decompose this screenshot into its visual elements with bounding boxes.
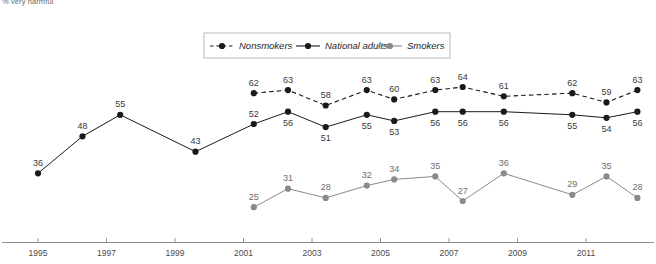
x-axis: 199519971999200120032005200720092011 (2, 238, 654, 258)
data-label: 63 (283, 75, 293, 85)
data-point (364, 183, 370, 189)
data-label: 53 (389, 127, 399, 137)
series-smokers (251, 170, 641, 210)
chart-container: % very harmful NonsmokersNational adults… (0, 0, 656, 264)
line-chart: NonsmokersNational adultsSmokers 1995199… (0, 0, 656, 264)
data-point (460, 109, 466, 115)
data-label: 52 (249, 109, 259, 119)
data-point (192, 149, 198, 155)
data-point (569, 192, 575, 198)
data-label: 43 (190, 136, 200, 146)
data-label: 60 (389, 84, 399, 94)
series-line (38, 112, 637, 174)
data-label: 62 (567, 78, 577, 88)
data-point (460, 84, 466, 90)
data-point (501, 93, 507, 99)
data-label: 63 (430, 75, 440, 85)
data-label: 25 (249, 192, 259, 202)
data-label: 31 (283, 173, 293, 183)
series-national-adults (35, 109, 641, 177)
data-label: 28 (632, 182, 642, 192)
legend-marker-icon (387, 43, 393, 49)
data-label: 56 (430, 118, 440, 128)
data-point (391, 118, 397, 124)
data-label: 56 (458, 118, 468, 128)
data-point (251, 90, 257, 96)
legend-label: Nonsmokers (239, 40, 293, 51)
data-point (391, 176, 397, 182)
data-point (634, 87, 640, 93)
x-axis-tick-label: 2009 (508, 248, 527, 258)
data-point (432, 173, 438, 179)
data-point (323, 102, 329, 108)
data-label: 56 (632, 118, 642, 128)
data-point (569, 112, 575, 118)
data-label: 61 (499, 81, 509, 91)
data-point (603, 99, 609, 105)
data-point (79, 133, 85, 139)
series-nonsmokers (251, 84, 641, 109)
data-label: 48 (77, 121, 87, 131)
data-point (391, 96, 397, 102)
data-point (285, 109, 291, 115)
x-axis-tick-label: 1995 (29, 248, 48, 258)
data-point (364, 87, 370, 93)
x-axis-tick-label: 2001 (234, 248, 253, 258)
data-point (432, 87, 438, 93)
data-label: 32 (362, 170, 372, 180)
legend-marker-icon (305, 43, 311, 49)
data-label: 64 (458, 72, 468, 82)
data-point (603, 173, 609, 179)
data-label: 27 (458, 186, 468, 196)
data-label: 55 (362, 121, 372, 131)
data-label: 35 (430, 161, 440, 171)
data-point (634, 109, 640, 115)
data-label: 34 (389, 164, 399, 174)
data-label: 54 (601, 124, 611, 134)
data-label: 62 (249, 78, 259, 88)
series-line (254, 87, 638, 106)
data-point (323, 195, 329, 201)
data-point (634, 195, 640, 201)
chart-legend: NonsmokersNational adultsSmokers (204, 33, 450, 58)
series-layer (35, 84, 641, 210)
data-label: 63 (632, 75, 642, 85)
data-point (251, 121, 257, 127)
data-point (501, 170, 507, 176)
data-point (251, 204, 257, 210)
data-label: 55 (567, 121, 577, 131)
data-label: 51 (321, 133, 331, 143)
data-labels-layer: 6263586360636461625963364855435256515553… (33, 72, 642, 202)
data-label: 36 (499, 158, 509, 168)
data-label: 59 (601, 87, 611, 97)
data-label: 63 (362, 75, 372, 85)
x-axis-tick-label: 1997 (97, 248, 116, 258)
x-axis-tick-label: 2007 (440, 248, 459, 258)
data-point (603, 115, 609, 121)
data-point (285, 186, 291, 192)
data-point (323, 124, 329, 130)
x-axis-tick-label: 2011 (577, 248, 596, 258)
data-label: 56 (499, 118, 509, 128)
data-label: 36 (33, 158, 43, 168)
x-axis-tick-label: 2005 (371, 248, 390, 258)
x-axis-tick-label: 2003 (303, 248, 322, 258)
data-point (501, 109, 507, 115)
data-point (117, 112, 123, 118)
data-label: 29 (567, 179, 577, 189)
data-point (364, 112, 370, 118)
data-label: 28 (321, 182, 331, 192)
data-point (460, 198, 466, 204)
data-point (432, 109, 438, 115)
data-label: 55 (115, 99, 125, 109)
series-line (254, 173, 638, 207)
data-point (285, 87, 291, 93)
data-label: 56 (283, 118, 293, 128)
data-label: 35 (601, 161, 611, 171)
data-point (569, 90, 575, 96)
data-point (35, 170, 41, 176)
x-axis-tick-label: 1999 (166, 248, 185, 258)
data-label: 58 (321, 90, 331, 100)
legend-label: Smokers (407, 40, 445, 51)
legend-marker-icon (219, 43, 225, 49)
